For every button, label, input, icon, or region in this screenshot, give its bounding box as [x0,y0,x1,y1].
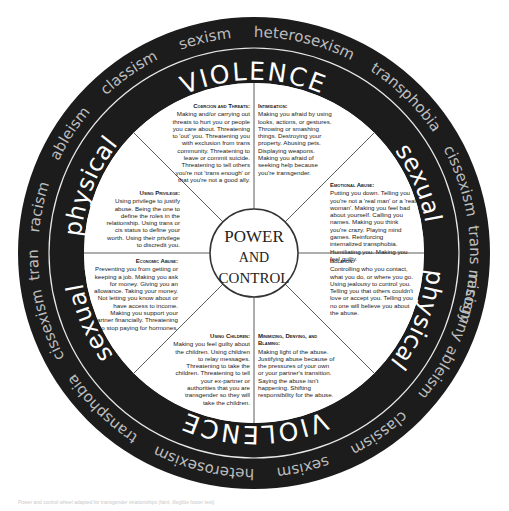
segment-title: Using Children: [172,333,250,340]
center-title-line2: AND [239,250,269,265]
footer-caption: Power and control wheel adapted for tran… [18,499,488,506]
segment-using-privilege: Using Privilege: Using privilege to just… [102,190,180,248]
segment-intimidation: Intimidation: Making you afraid by using… [258,103,334,176]
segment-title: Coercion and Threats: [172,103,250,110]
segment-title: Emotional Abuse: [330,182,416,189]
segment-emotional-abuse: Emotional Abuse: Putting you down. Telli… [330,182,416,262]
segment-minimizing-denying-blaming: Minimizing, Denying, and Blaming: Making… [258,333,336,399]
segment-coercion-threats: Coercion and Threats: Making and/or carr… [172,103,250,183]
segment-text: Making and/or carrying out threats to hu… [172,110,250,183]
segment-text: Controlling who you contact, what you do… [330,265,413,316]
segment-title: Isolation: [330,258,418,265]
center-title-line1: POWER [224,227,284,246]
segment-title: Intimidation: [258,103,334,110]
segment-using-children: Using Children: Making you feel guilty a… [172,333,250,406]
segment-text: Making you afraid by using looks, action… [258,110,332,175]
segment-text: Making you feel guilty about the childre… [173,340,250,405]
segment-text: Putting you down. Telling you you're not… [330,189,416,262]
segment-text: Preventing you from getting or keeping a… [94,265,178,330]
segment-title: Economic Abuse: [92,258,178,265]
segment-title: Using Privilege: [102,190,180,197]
segment-text: Making light of the abuse. Justifying ab… [258,348,334,399]
power-control-wheel: POWER AND CONTROL racism ableism classis… [0,0,509,511]
segment-isolation: Isolation: Controlling who you contact, … [330,258,418,316]
segment-title: Minimizing, Denying, and Blaming: [258,333,336,348]
center-title-line3: CONTROL [219,270,290,286]
segment-economic-abuse: Economic Abuse: Preventing you from gett… [92,258,178,331]
segment-text: Using privilege to justify abuse. Being … [106,197,180,248]
